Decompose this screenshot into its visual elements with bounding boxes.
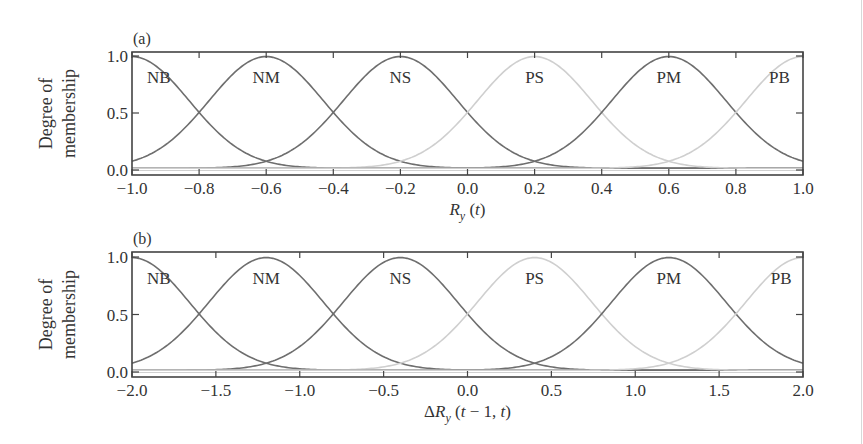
y-tick-label: 0.0 — [107, 161, 128, 180]
x-tick-label: −1.5 — [200, 381, 231, 400]
y-tick-label: 0.5 — [107, 306, 128, 325]
x-tick-label: 0.0 — [457, 179, 478, 198]
x-tick-label: −0.8 — [184, 179, 215, 198]
term-label-pb: PB — [771, 269, 792, 288]
x-tick-label: 0.6 — [658, 179, 679, 198]
x-tick-label: 1.5 — [709, 381, 730, 400]
x-axis-title: Ry (t) — [448, 200, 485, 223]
membership-figure: (a)NBNMNSPSPMPB−1.0−0.8−0.6−0.4−0.20.00.… — [0, 0, 863, 444]
x-tick-label: −1.0 — [284, 381, 315, 400]
term-label-ps: PS — [525, 269, 544, 288]
y-tick-label: 1.0 — [107, 47, 128, 66]
x-axis-title: ΔRy (t − 1, t) — [424, 402, 511, 425]
term-label-pm: PM — [657, 68, 682, 87]
y-axis-title: Degree ofmembership — [36, 270, 79, 359]
x-tick-label: −0.2 — [385, 179, 416, 198]
term-label-nm: NM — [252, 68, 279, 87]
panel-tag: (b) — [133, 230, 152, 248]
x-tick-label: −1.0 — [117, 179, 148, 198]
x-tick-label: 0.2 — [524, 179, 545, 198]
x-tick-label: −2.0 — [117, 381, 148, 400]
y-axis-title: Degree ofmembership — [36, 69, 79, 158]
x-tick-label: 1.0 — [792, 179, 813, 198]
term-label-ns: NS — [390, 68, 412, 87]
x-tick-label: −0.5 — [368, 381, 399, 400]
x-tick-label: 2.0 — [792, 381, 813, 400]
x-tick-label: 1.0 — [625, 381, 646, 400]
panel-a: (a)NBNMNSPSPMPB−1.0−0.8−0.6−0.4−0.20.00.… — [36, 30, 814, 223]
term-label-nm: NM — [252, 269, 279, 288]
term-label-pb: PB — [769, 68, 790, 87]
panel-tag: (a) — [133, 30, 151, 48]
y-tick-label: 0.0 — [107, 363, 128, 382]
x-tick-label: 0.0 — [457, 381, 478, 400]
y-tick-label: 1.0 — [107, 248, 128, 267]
x-tick-label: −0.4 — [318, 179, 349, 198]
y-tick-label: 0.5 — [107, 104, 128, 123]
term-label-ns: NS — [390, 269, 412, 288]
x-tick-label: 0.4 — [591, 179, 613, 198]
x-tick-label: 0.5 — [541, 381, 562, 400]
term-label-ps: PS — [525, 68, 544, 87]
x-tick-label: −0.6 — [251, 179, 282, 198]
term-label-pm: PM — [657, 269, 682, 288]
term-label-nb: NB — [147, 68, 171, 87]
x-tick-label: 0.8 — [725, 179, 746, 198]
panel-b: (b)NBNMNSPSPMPB−2.0−1.5−1.0−0.50.00.51.0… — [36, 230, 814, 425]
term-label-nb: NB — [147, 269, 171, 288]
